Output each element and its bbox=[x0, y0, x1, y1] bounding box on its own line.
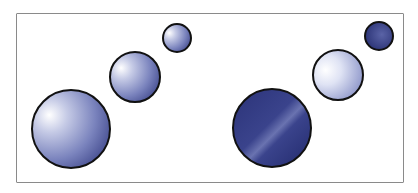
sphere-large-dark bbox=[233, 89, 311, 167]
sphere-small-light bbox=[163, 24, 191, 52]
sphere-large-light bbox=[32, 90, 110, 168]
sphere-medium-light bbox=[110, 52, 160, 102]
left-sphere-group bbox=[32, 24, 191, 168]
sphere-small-dark bbox=[365, 22, 393, 50]
right-sphere-group bbox=[233, 22, 393, 167]
sphere-medium-pale bbox=[313, 50, 363, 100]
spheres-canvas bbox=[0, 0, 418, 193]
